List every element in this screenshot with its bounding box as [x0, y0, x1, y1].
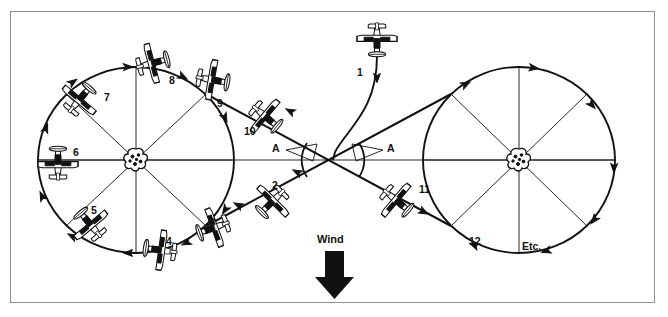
position-label-8: 8 — [169, 74, 175, 86]
airplane-4 — [141, 228, 180, 273]
wind-label: Wind — [317, 233, 344, 245]
diagram-canvas: 1 2 3 4 5 6 7 8 9 10 11 12 A A Etc. Wind — [0, 0, 668, 317]
airplane-group — [38, 23, 423, 273]
angle-label-left: A — [272, 142, 280, 154]
etc-label: Etc. — [522, 240, 541, 252]
airplane-8 — [131, 39, 174, 87]
position-label-10: 10 — [244, 125, 256, 137]
airplane-9 — [193, 57, 233, 103]
angle-label-right: A — [387, 142, 395, 154]
position-label-3: 3 — [210, 216, 216, 228]
position-label-6: 6 — [73, 146, 79, 158]
flight-pattern-svg: 1 2 3 4 5 6 7 8 9 10 11 12 A A Etc. Wind — [0, 0, 668, 317]
airplane-11 — [371, 174, 423, 227]
position-label-1: 1 — [357, 66, 363, 78]
position-label-9: 9 — [217, 97, 223, 109]
wind-indicator: Wind — [315, 233, 354, 299]
position-label-2: 2 — [272, 179, 278, 191]
left-pylon-marker — [124, 148, 148, 171]
position-label-12: 12 — [469, 235, 481, 247]
airplane-1 — [357, 23, 397, 57]
position-label-11: 11 — [419, 183, 430, 195]
position-label-5: 5 — [91, 204, 97, 216]
position-label-4: 4 — [166, 235, 172, 247]
wind-arrow-icon — [315, 251, 354, 299]
angle-leader-right — [352, 144, 383, 161]
position-label-7: 7 — [104, 91, 110, 103]
